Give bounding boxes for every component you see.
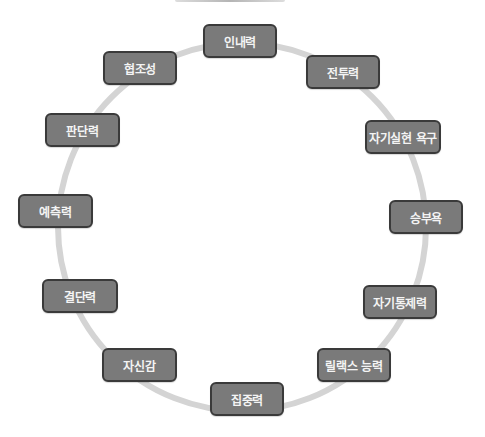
node-label: 자기실현 욕구 <box>369 129 437 146</box>
node-patience: 인내력 <box>203 24 277 58</box>
node-confidence: 자신감 <box>102 348 177 382</box>
node-prediction: 예측력 <box>18 194 93 228</box>
node-concentration: 집중력 <box>210 382 284 416</box>
node-label: 릴랙스 능력 <box>325 357 382 374</box>
node-label: 전투력 <box>327 64 359 81</box>
node-competitiveness: 승부욕 <box>389 200 463 234</box>
node-label: 판단력 <box>66 122 98 139</box>
node-label: 인내력 <box>224 33 256 50</box>
node-label: 집중력 <box>231 391 263 408</box>
node-fighting-power: 전투력 <box>306 55 380 89</box>
node-label: 협조성 <box>124 60 156 77</box>
node-cooperation: 협조성 <box>103 51 177 85</box>
node-label: 승부욕 <box>410 209 442 226</box>
node-label: 자신감 <box>123 357 155 374</box>
node-label: 결단력 <box>64 288 96 305</box>
node-self-actualization: 자기실현 욕구 <box>365 120 441 154</box>
node-label: 예측력 <box>39 203 71 220</box>
node-label: 자기통제력 <box>373 294 427 311</box>
node-judgment: 판단력 <box>45 113 120 147</box>
node-self-control: 자기통제력 <box>363 285 437 319</box>
node-relaxation: 릴랙스 능력 <box>317 348 391 382</box>
node-decisiveness: 결단력 <box>42 279 118 313</box>
